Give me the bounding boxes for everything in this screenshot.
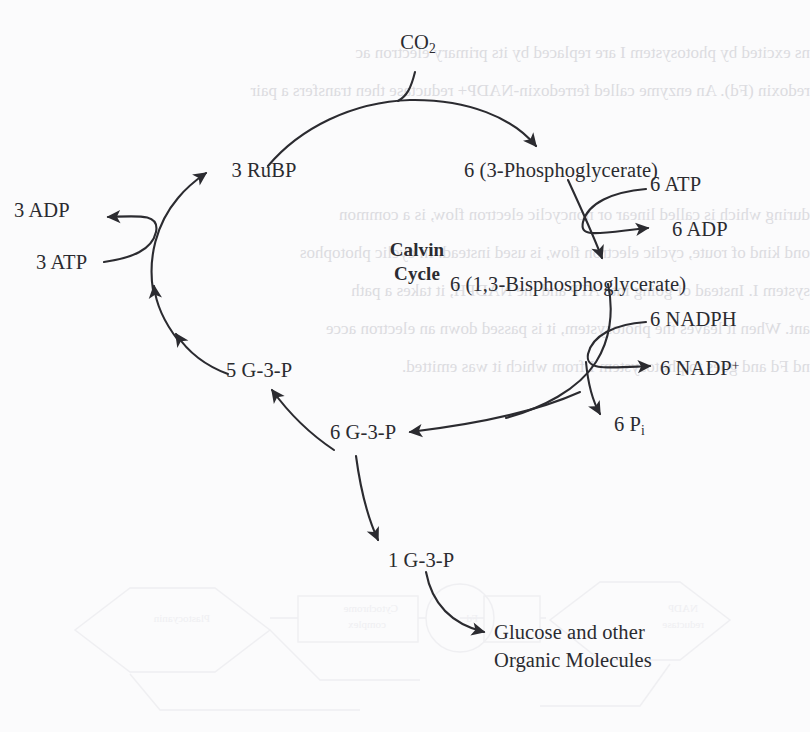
- cofactor-label-6-atp: 6 ATP: [650, 172, 701, 196]
- arrow-g3p1-to-glucose: [426, 572, 484, 632]
- cofactor-label-6-nadph: 6 NADPH: [650, 307, 737, 331]
- calvin-cycle-figure: ns excited by photosystem I are replaced…: [0, 0, 810, 732]
- svg-text:Fd: Fd: [466, 612, 478, 624]
- arrow-g3p5-to-rubp-lower: [176, 334, 228, 374]
- arrow-to-rubp: [152, 173, 206, 290]
- arrow-g3p6-to-g3p5: [272, 390, 334, 450]
- svg-text:complex: complex: [348, 618, 386, 630]
- cofactor-label-3-atp: 3 ATP: [36, 250, 87, 274]
- arrow-atp-to-adp-6: [583, 189, 648, 233]
- arrow-co2-into-cycle: [398, 72, 415, 101]
- arrow-rubp-to-pga: [268, 100, 536, 166]
- arrow-g3p6-to-g3p1: [356, 456, 378, 540]
- node-label-g3p-6: 6 G-3-P: [330, 420, 396, 444]
- diagram-title-line-1: Calvin: [390, 238, 444, 262]
- node-label-co2: CO2: [400, 30, 436, 57]
- cofactor-label-6-pi: 6 Pi: [614, 412, 645, 439]
- node-label-3-phosphoglycerate: 6 (3-Phosphoglycerate): [464, 158, 658, 182]
- cofactor-label-6-adp: 6 ADP: [672, 217, 728, 241]
- node-label-g3p-5: 5 G-3-P: [226, 358, 292, 382]
- bleed-through-figure: NADP reductase Fd Cytochrome complex Pla…: [30, 560, 790, 730]
- node-label-rubp: 3 RuBP: [232, 158, 297, 182]
- svg-text:NADP: NADP: [668, 602, 698, 614]
- node-label-g3p-1: 1 G-3-P: [388, 548, 454, 572]
- arrow-into-g3p6: [410, 392, 580, 432]
- arrow-nadph-to-nadp-6: [588, 322, 650, 368]
- node-label-bisphosphoglycerate: 6 (1,3-Bisphosphoglycerate): [450, 272, 686, 296]
- arrow-g3p5-to-rubp-upper: [154, 286, 178, 340]
- svg-text:Plastocyanin: Plastocyanin: [153, 612, 210, 624]
- arrow-bpg-to-g3p: [506, 284, 611, 418]
- arrow-to-pi-6: [586, 362, 600, 414]
- node-label-glucose-and-organic-molecules: Glucose and other Organic Molecules: [494, 618, 652, 675]
- bleed-line: redoxin (Fd). An enzyme called ferredoxi…: [0, 72, 810, 110]
- diagram-title: Calvin Cycle: [390, 238, 444, 287]
- svg-text:reductase: reductase: [662, 618, 704, 630]
- cofactor-label-6-nadp-plus: 6 NADP+: [660, 356, 740, 380]
- glucose-line-2: Organic Molecules: [494, 646, 652, 674]
- glucose-line-1: Glucose and other: [494, 618, 652, 646]
- cofactor-label-3-adp: 3 ADP: [14, 198, 70, 222]
- svg-text:Cytochrome: Cytochrome: [344, 602, 398, 614]
- arrow-atp-to-adp-3: [104, 216, 156, 262]
- diagram-title-line-2: Cycle: [390, 262, 444, 286]
- arrow-pga-to-bpg: [568, 180, 602, 258]
